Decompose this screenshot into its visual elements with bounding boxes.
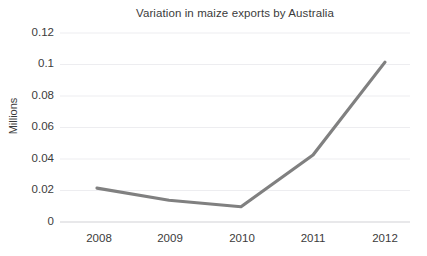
plot-area	[0, 0, 427, 256]
gridlines	[60, 33, 410, 222]
data-series-line	[97, 62, 385, 207]
line-chart: Variation in maize exports by Australia …	[0, 0, 427, 256]
